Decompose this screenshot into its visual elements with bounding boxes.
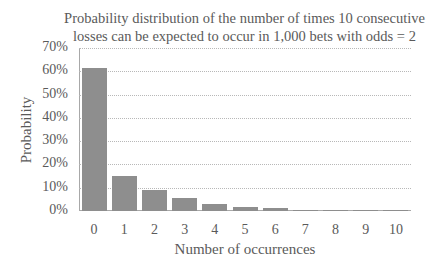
x-tick-label: 9 bbox=[351, 222, 381, 238]
bar-7 bbox=[293, 210, 318, 211]
gridline bbox=[79, 48, 411, 49]
plot-area bbox=[79, 48, 411, 211]
bar-5 bbox=[233, 207, 258, 211]
x-tick-label: 0 bbox=[79, 222, 109, 238]
chart-title: Probability distribution of the number o… bbox=[60, 9, 429, 45]
bar-6 bbox=[263, 208, 288, 211]
y-tick-label: 70% bbox=[28, 39, 68, 55]
bar-4 bbox=[202, 204, 227, 211]
y-tick-label: 10% bbox=[28, 179, 68, 195]
chart-title-line-2: losses can be expected to occur in 1,000… bbox=[60, 27, 429, 45]
gridline bbox=[79, 118, 411, 119]
y-tick-label: 30% bbox=[28, 132, 68, 148]
x-tick-label: 8 bbox=[321, 222, 351, 238]
x-tick-label: 6 bbox=[260, 222, 290, 238]
bar-3 bbox=[172, 198, 197, 211]
y-axis-line bbox=[79, 48, 80, 211]
y-tick-label: 0% bbox=[28, 202, 68, 218]
x-tick-label: 2 bbox=[139, 222, 169, 238]
y-tick-label: 50% bbox=[28, 86, 68, 102]
x-tick-label: 7 bbox=[290, 222, 320, 238]
gridline bbox=[79, 95, 411, 96]
y-axis-label: Probability bbox=[18, 97, 35, 164]
bar-10 bbox=[383, 210, 408, 211]
gridline bbox=[79, 71, 411, 72]
x-tick-label: 4 bbox=[200, 222, 230, 238]
bar-9 bbox=[353, 210, 378, 211]
y-tick-label: 20% bbox=[28, 155, 68, 171]
gridline bbox=[79, 141, 411, 142]
x-tick-label: 5 bbox=[230, 222, 260, 238]
x-tick-label: 1 bbox=[109, 222, 139, 238]
x-axis-label: Number of occurrences bbox=[79, 241, 411, 258]
y-tick-label: 60% bbox=[28, 62, 68, 78]
y-tick-label: 40% bbox=[28, 109, 68, 125]
gridline bbox=[79, 164, 411, 165]
chart-title-line-1: Probability distribution of the number o… bbox=[60, 9, 429, 27]
x-tick-label: 10 bbox=[381, 222, 411, 238]
bar-8 bbox=[323, 210, 348, 211]
bar-2 bbox=[142, 190, 167, 211]
bar-1 bbox=[112, 176, 137, 211]
bar-0 bbox=[82, 68, 107, 211]
x-tick-label: 3 bbox=[170, 222, 200, 238]
